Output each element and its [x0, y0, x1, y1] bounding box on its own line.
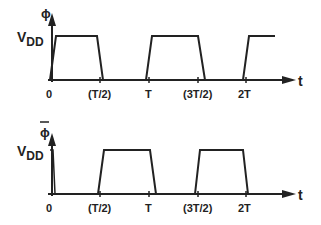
phi-bar-waveform [98, 150, 248, 194]
phi-bar-tick-t: T [145, 202, 152, 214]
phi-x-axis-arrow-icon [282, 76, 296, 84]
phi-plot: ϕ VDD t 0 (T/2) T (3T/2) 2T [17, 6, 303, 100]
phi-signal-label: ϕ [41, 6, 51, 21]
phi-waveform [50, 36, 275, 80]
phi-bar-x-axis-arrow-icon [282, 190, 296, 198]
phi-bar-t-axis-label: t [298, 187, 303, 203]
phi-t-axis-label: t [298, 73, 303, 89]
clock-waveform-diagram: ϕ VDD t 0 (T/2) T (3T/2) 2T ϕ VDD t 0 ( [0, 0, 321, 225]
phi-bar-tick-3t-half: (3T/2) [183, 202, 213, 214]
phi-tick-t-half: (T/2) [88, 88, 112, 100]
phi-bar-tick-2t: 2T [238, 202, 251, 214]
phi-bar-tick-t-half: (T/2) [88, 202, 112, 214]
phi-tick-0: 0 [46, 88, 52, 100]
phi-vdd-label: VDD [17, 29, 44, 49]
phi-tick-2t: 2T [238, 88, 251, 100]
phi-tick-t: T [145, 88, 152, 100]
phi-bar-tick-0: 0 [46, 202, 52, 214]
phi-bar-signal-label: ϕ [40, 125, 50, 140]
phi-tick-3t-half: (3T/2) [183, 88, 213, 100]
phi-bar-vdd-label: VDD [17, 143, 44, 163]
phi-bar-plot: ϕ VDD t 0 (T/2) T (3T/2) 2T [17, 122, 303, 214]
